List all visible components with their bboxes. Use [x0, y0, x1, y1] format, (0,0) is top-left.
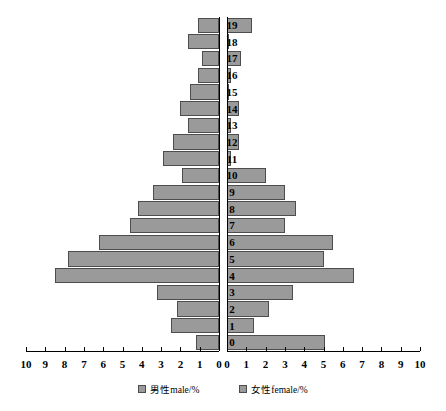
- bar-male-15: [190, 84, 219, 99]
- x-axis-label-left-8: 8: [55, 358, 75, 370]
- y-axis-label-19: 19: [219, 17, 245, 34]
- bar-row-female-3: [227, 284, 446, 301]
- y-axis-label-18: 18: [219, 34, 245, 51]
- x-tick-right-5: [324, 347, 325, 351]
- bar-male-14: [180, 101, 219, 116]
- bar-row-male-6: [0, 234, 219, 251]
- bar-row-female-19: [227, 17, 446, 34]
- legend-label-male: 男性male/%: [150, 382, 199, 396]
- x-axis-label-left-6: 6: [93, 358, 113, 370]
- bar-row-male-15: [0, 84, 219, 101]
- bar-male-16: [198, 68, 219, 83]
- x-tick-left-4: [142, 347, 143, 351]
- bar-row-male-7: [0, 217, 219, 234]
- bar-row-male-14: [0, 101, 219, 118]
- bar-row-female-6: [227, 234, 446, 251]
- legend-swatch-female-icon: [239, 385, 247, 393]
- x-axis-label-right-1: 1: [236, 358, 256, 370]
- x-tick-right-1: [246, 347, 247, 351]
- bar-male-9: [153, 185, 219, 200]
- bar-row-female-16: [227, 67, 446, 84]
- x-tick-right-4: [304, 347, 305, 351]
- x-tick-left-2: [180, 347, 181, 351]
- bar-male-19: [198, 18, 219, 33]
- bar-male-7: [130, 218, 219, 233]
- y-axis-label-7: 7: [219, 217, 245, 234]
- y-axis-label-2: 2: [219, 301, 245, 318]
- x-axis-label-right-5: 5: [314, 358, 334, 370]
- x-tick-right-8: [381, 347, 382, 351]
- bar-row-female-7: [227, 217, 446, 234]
- y-axis-label-9: 9: [219, 184, 245, 201]
- legend-swatch-male-icon: [138, 385, 146, 393]
- x-axis-label-left-9: 9: [35, 358, 55, 370]
- population-pyramid-chart: 0123456789101112131415161718191098765432…: [0, 0, 446, 411]
- x-tick-left-1: [200, 347, 201, 351]
- bar-male-18: [188, 34, 219, 49]
- x-axis-label-left-10: 10: [16, 358, 36, 370]
- x-axis-label-left-4: 4: [132, 358, 152, 370]
- bar-male-17: [202, 51, 219, 66]
- x-tick-right-10: [420, 347, 421, 351]
- x-axis-label-right-7: 7: [352, 358, 372, 370]
- x-axis-label-right-10: 10: [410, 358, 430, 370]
- x-axis-label-right-6: 6: [333, 358, 353, 370]
- y-axis-label-12: 12: [219, 134, 245, 151]
- x-axis-label-left-7: 7: [74, 358, 94, 370]
- x-tick-right-2: [266, 347, 267, 351]
- y-axis-label-4: 4: [219, 268, 245, 285]
- bar-male-3: [157, 285, 219, 300]
- y-axis-label-17: 17: [219, 50, 245, 67]
- male-zero-axis: [219, 17, 220, 351]
- x-tick-right-3: [285, 347, 286, 351]
- bar-male-4: [55, 268, 219, 283]
- y-axis-label-16: 16: [219, 67, 245, 84]
- bar-male-11: [163, 151, 219, 166]
- bar-row-female-2: [227, 301, 446, 318]
- x-axis-label-left-5: 5: [113, 358, 133, 370]
- x-axis-line-left: [26, 351, 219, 352]
- x-tick-right-9: [401, 347, 402, 351]
- y-axis-label-5: 5: [219, 251, 245, 268]
- bar-male-12: [173, 134, 219, 149]
- bar-row-female-17: [227, 50, 446, 67]
- y-axis-label-0: 0: [219, 334, 245, 351]
- x-tick-right-7: [362, 347, 363, 351]
- bar-row-male-19: [0, 17, 219, 34]
- bar-row-female-13: [227, 117, 446, 134]
- y-axis-label-3: 3: [219, 284, 245, 301]
- bar-male-2: [177, 301, 219, 316]
- x-tick-left-9: [45, 347, 46, 351]
- bar-row-female-14: [227, 101, 446, 118]
- bar-row-male-8: [0, 201, 219, 218]
- legend-label-female: 女性female/%: [251, 382, 307, 396]
- bar-row-male-1: [0, 318, 219, 335]
- x-axis-label-right-4: 4: [294, 358, 314, 370]
- x-axis-label-right-9: 9: [391, 358, 411, 370]
- y-axis-label-11: 11: [219, 151, 245, 168]
- x-tick-left-6: [103, 347, 104, 351]
- x-axis-label-right-2: 2: [256, 358, 276, 370]
- bar-row-male-2: [0, 301, 219, 318]
- y-axis-label-10: 10: [219, 167, 245, 184]
- bar-row-female-9: [227, 184, 446, 201]
- bar-row-female-5: [227, 251, 446, 268]
- bar-row-male-17: [0, 50, 219, 67]
- x-tick-left-5: [123, 347, 124, 351]
- bar-row-female-4: [227, 268, 446, 285]
- bar-male-10: [182, 168, 219, 183]
- bar-male-8: [138, 201, 219, 216]
- bar-row-male-12: [0, 134, 219, 151]
- legend-item-male: 男性male/%: [138, 382, 199, 396]
- x-tick-left-0: [219, 347, 220, 351]
- x-axis-label-right-0: 0: [217, 358, 237, 370]
- x-tick-left-7: [84, 347, 85, 351]
- bar-row-male-10: [0, 167, 219, 184]
- bar-male-1: [171, 318, 219, 333]
- x-tick-left-10: [26, 347, 27, 351]
- bar-row-female-11: [227, 151, 446, 168]
- bar-row-female-8: [227, 201, 446, 218]
- x-axis-label-right-3: 3: [275, 358, 295, 370]
- bar-row-female-10: [227, 167, 446, 184]
- bar-row-male-16: [0, 67, 219, 84]
